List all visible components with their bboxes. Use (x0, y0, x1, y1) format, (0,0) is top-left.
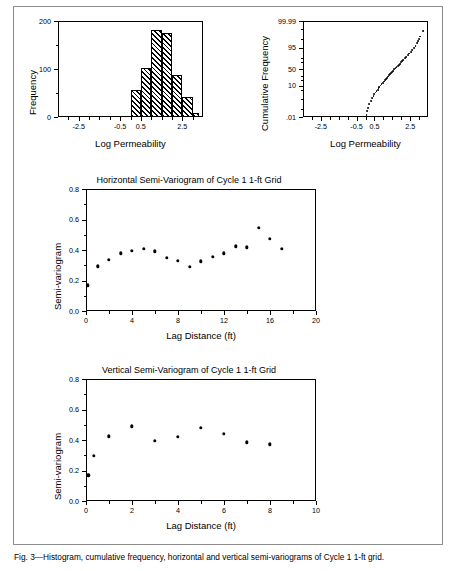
x-major-tick (86, 501, 87, 505)
data-point (370, 100, 372, 102)
vertical-variogram-plot-area (86, 379, 316, 501)
histogram-y-axis-label: Frequency (27, 70, 38, 115)
y-major-tick (54, 21, 58, 22)
y-tick-label: 0.6 (46, 215, 79, 224)
data-point (405, 56, 407, 58)
y-minor-tick (56, 93, 59, 94)
horizontal-variogram-panel: Horizontal Semi-Variogram of Cycle 1 1-f… (14, 167, 444, 357)
y-minor-tick (84, 265, 87, 266)
y-minor-tick (84, 455, 87, 456)
y-minor-tick (301, 76, 304, 77)
x-minor-tick (131, 117, 132, 120)
x-minor-tick (339, 117, 340, 120)
x-minor-tick (366, 117, 367, 120)
y-major-tick (82, 501, 86, 502)
y-major-tick (82, 379, 86, 380)
data-point (373, 95, 375, 97)
x-tick-label: 20 (300, 316, 332, 325)
x-major-tick (316, 311, 317, 315)
probability-x-axis-label: Log Permeability (293, 138, 438, 149)
y-tick-label: .01 (263, 113, 296, 122)
y-tick-label: 0.8 (46, 375, 79, 384)
y-minor-tick (301, 39, 304, 40)
data-point (419, 36, 421, 38)
x-tick-label: 2.5 (394, 122, 426, 131)
x-tick-label: 2.5 (166, 122, 198, 131)
y-minor-tick (84, 235, 87, 236)
y-tick-label: 10 (263, 81, 296, 90)
x-minor-tick (89, 117, 90, 120)
data-point (412, 49, 414, 51)
y-tick-label: 0.4 (46, 246, 79, 255)
x-minor-tick (247, 501, 248, 504)
y-major-tick (54, 69, 58, 70)
x-minor-tick (99, 117, 100, 120)
y-major-tick (299, 48, 303, 49)
y-major-tick (299, 117, 303, 118)
x-major-tick (141, 117, 142, 121)
y-minor-tick (301, 29, 304, 30)
x-major-tick (224, 501, 225, 505)
vertical-variogram-title: Vertical Semi-Variogram of Cycle 1 1-ft … (54, 365, 324, 375)
x-tick-label: 8 (162, 316, 194, 325)
x-major-tick (357, 117, 358, 121)
y-major-tick (82, 281, 86, 282)
horizontal-variogram-title: Horizontal Semi-Variogram of Cycle 1 1-f… (54, 175, 324, 185)
y-minor-tick (301, 80, 304, 81)
x-minor-tick (172, 117, 173, 120)
y-major-tick (299, 21, 303, 22)
y-major-tick (299, 86, 303, 87)
y-minor-tick (84, 486, 87, 487)
data-point (422, 30, 424, 32)
y-tick-label: 0.4 (46, 436, 79, 445)
y-minor-tick (301, 99, 304, 100)
x-minor-tick (162, 117, 163, 120)
x-major-tick (132, 501, 133, 505)
x-minor-tick (155, 311, 156, 314)
x-minor-tick (348, 117, 349, 120)
x-major-tick (224, 311, 225, 315)
x-tick-label: 0.5 (125, 122, 157, 131)
probability-plot-area (303, 21, 428, 117)
probability-plot-panel: Cumulative Frequency Log Permeability -2… (229, 7, 444, 167)
y-tick-label: 50 (263, 65, 296, 74)
histogram-bar (162, 33, 172, 117)
x-minor-tick (201, 501, 202, 504)
y-tick-label: 0.8 (46, 185, 79, 194)
figure-frame: Frequency Log Permeability -2.5-0.50.52.… (13, 6, 443, 545)
x-major-tick (86, 311, 87, 315)
y-minor-tick (301, 109, 304, 110)
y-tick-label: 0 (18, 113, 51, 122)
y-major-tick (82, 250, 86, 251)
y-tick-label: 200 (18, 17, 51, 26)
data-point (408, 53, 410, 55)
x-tick-label: 12 (208, 316, 240, 325)
x-major-tick (178, 311, 179, 315)
y-tick-label: 0.0 (46, 497, 79, 506)
histogram-bar (131, 90, 141, 117)
x-minor-tick (155, 501, 156, 504)
x-major-tick (178, 501, 179, 505)
histogram-x-axis-label: Log Permeability (58, 138, 203, 149)
y-major-tick (82, 220, 86, 221)
x-tick-label: 6 (208, 506, 240, 515)
x-minor-tick (109, 501, 110, 504)
x-minor-tick (383, 117, 384, 120)
data-point (418, 38, 420, 40)
y-tick-label: 0.6 (46, 405, 79, 414)
histogram-bar (182, 97, 192, 117)
y-major-tick (82, 440, 86, 441)
x-tick-label: -2.5 (63, 122, 95, 131)
data-point (366, 111, 368, 113)
x-tick-label: 4 (162, 506, 194, 515)
histogram-bar (141, 68, 151, 117)
data-point (413, 47, 415, 49)
y-minor-tick (301, 58, 304, 59)
x-minor-tick (401, 117, 402, 120)
figure-caption: Fig. 3—Histogram, cumulative frequency, … (14, 552, 446, 563)
x-minor-tick (293, 501, 294, 504)
x-minor-tick (419, 117, 420, 120)
x-minor-tick (293, 311, 294, 314)
y-major-tick (82, 410, 86, 411)
data-point (366, 114, 368, 116)
